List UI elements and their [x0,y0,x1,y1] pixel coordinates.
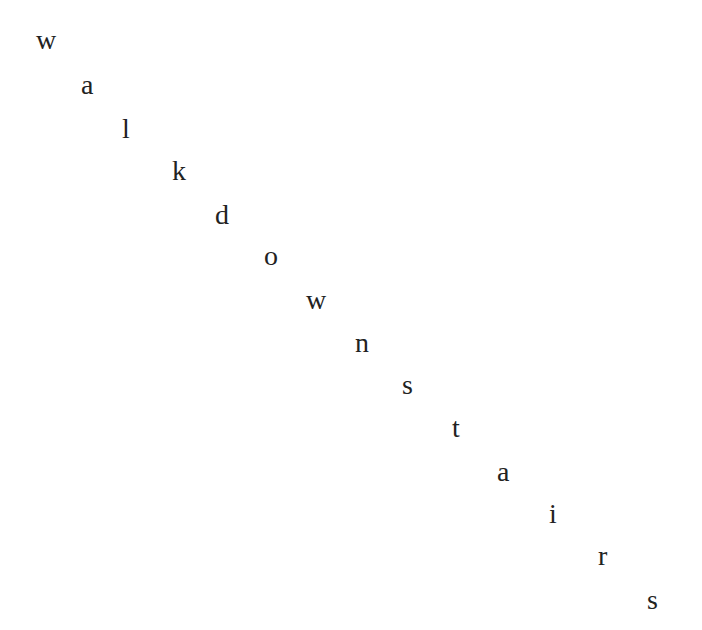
letter-n: n [355,329,369,357]
letter-i: i [549,500,557,528]
letter-a-1: a [81,71,93,99]
letter-d: d [215,201,229,229]
diagonal-text-stage: w a l k d o w n s t a i r s [0,0,702,630]
letter-k: k [172,157,186,185]
letter-t: t [452,414,460,442]
letter-s-1: s [402,371,413,399]
letter-w-1: w [36,26,56,54]
letter-l: l [122,115,130,143]
letter-w-2: w [306,286,326,314]
letter-o: o [264,242,278,270]
letter-s-2: s [647,586,658,614]
letter-r: r [598,542,607,570]
letter-a-2: a [497,458,509,486]
